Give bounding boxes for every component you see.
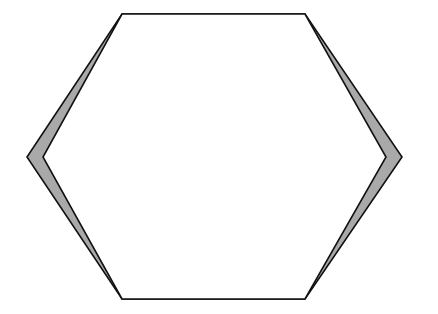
hexagon-diagram [0, 0, 438, 314]
diagram-canvas [0, 0, 438, 314]
